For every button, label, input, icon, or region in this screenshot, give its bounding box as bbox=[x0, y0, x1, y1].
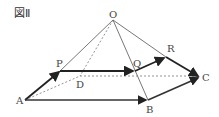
label-b: B bbox=[146, 104, 153, 115]
label-o: O bbox=[109, 9, 117, 20]
geometry-diagram: O P Q R A B C D bbox=[0, 0, 219, 117]
edge-ad-hidden bbox=[25, 76, 80, 100]
vector-rc bbox=[166, 57, 198, 76]
label-q: Q bbox=[133, 58, 141, 69]
edge-od-hidden bbox=[80, 20, 113, 76]
label-c: C bbox=[202, 72, 210, 83]
label-p: P bbox=[56, 58, 63, 69]
edge-op bbox=[60, 20, 113, 71]
label-r: R bbox=[167, 43, 175, 54]
label-d: D bbox=[76, 79, 84, 90]
vector-ap bbox=[25, 72, 59, 100]
vector-bc bbox=[148, 78, 198, 100]
label-a: A bbox=[15, 95, 24, 106]
